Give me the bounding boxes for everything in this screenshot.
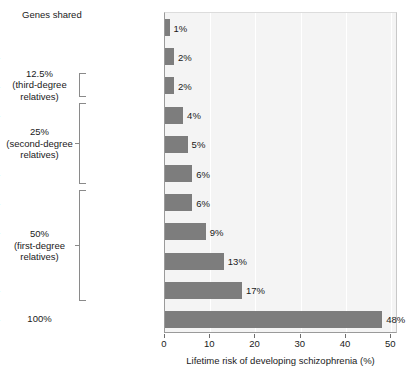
genes-shared-label-second-degree: 25%(second-degreerelatives): [6, 126, 73, 161]
genes-shared-label-line: (second-degree: [6, 138, 73, 150]
bar-row: 48%: [165, 311, 398, 328]
x-tick-label: 10: [204, 338, 215, 349]
genes-shared-label-first-degree: 50%(first-degreerelatives): [6, 228, 73, 263]
bar-value-label: 48%: [382, 314, 405, 325]
genes-shared-label-line: relatives): [6, 149, 73, 161]
bar: [165, 107, 183, 124]
bar: [165, 165, 192, 182]
bar-row: 2%: [165, 48, 398, 65]
x-tick-label: 20: [249, 338, 260, 349]
bar-row: 6%: [165, 165, 398, 182]
genes-shared-header: Genes shared: [22, 9, 82, 20]
bar: [165, 253, 224, 270]
bracket-tick-first-degree: [75, 245, 79, 246]
bar-row: 17%: [165, 282, 398, 299]
bar: [165, 194, 192, 211]
bar-value-label: 17%: [242, 285, 265, 296]
x-tick-label: 30: [294, 338, 305, 349]
bar-row: 13%: [165, 253, 398, 270]
bar-value-label: 1%: [170, 22, 188, 33]
genes-shared-label-line: relatives): [6, 251, 73, 263]
bar-value-label: 9%: [206, 226, 224, 237]
plot-area: 1%2%2%4%5%6%6%9%13%17%48%: [164, 12, 397, 333]
bar-row: 4%: [165, 107, 398, 124]
bar-row: 9%: [165, 223, 398, 240]
bar: [165, 282, 242, 299]
bracket-first-degree: [79, 190, 86, 301]
genes-shared-label-third-degree: 12.5%(third-degreerelatives): [6, 68, 73, 103]
bar-value-label: 13%: [224, 256, 247, 267]
x-tick-label: 50: [385, 338, 396, 349]
bar: [165, 136, 188, 153]
genes-shared-label-line: 12.5%: [6, 68, 73, 80]
bar-value-label: 2%: [174, 80, 192, 91]
bar-value-label: 6%: [192, 197, 210, 208]
x-tick-label: 0: [161, 338, 166, 349]
bar-value-label: 4%: [183, 110, 201, 121]
bar-row: 2%: [165, 77, 398, 94]
bracket-second-degree: [79, 103, 86, 185]
genes-shared-label-line: (third-degree: [6, 79, 73, 91]
genes-shared-label-identical: 100%: [6, 313, 73, 325]
genes-shared-label-line: 100%: [6, 313, 73, 325]
genes-shared-label-line: 50%: [6, 228, 73, 240]
bar-row: 6%: [165, 194, 398, 211]
genes-shared-label-line: 25%: [6, 126, 73, 138]
genes-shared-label-line: relatives): [6, 91, 73, 103]
bar-value-label: 6%: [192, 168, 210, 179]
x-axis-title: Lifetime risk of developing schizophreni…: [164, 355, 397, 366]
bar: [165, 311, 382, 328]
bar-row: 1%: [165, 19, 398, 36]
bar: [165, 223, 206, 240]
bracket-tick-second-degree: [75, 143, 79, 144]
bar-row: 5%: [165, 136, 398, 153]
bar-value-label: 5%: [188, 139, 206, 150]
bar: [165, 48, 174, 65]
x-tick-label: 40: [340, 338, 351, 349]
bracket-third-degree: [79, 73, 86, 96]
genes-shared-label-line: (first-degree: [6, 240, 73, 252]
bar-value-label: 2%: [174, 51, 192, 62]
bar: [165, 77, 174, 94]
